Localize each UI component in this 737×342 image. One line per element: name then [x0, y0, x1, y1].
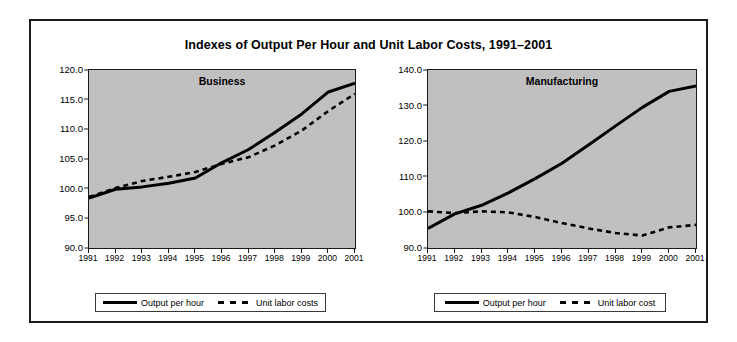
legend-entry-unit-labor-cost: Unit labor cost	[560, 298, 656, 308]
y-tick-label: 130.0	[398, 99, 427, 110]
panel-title-business: Business	[89, 75, 355, 87]
y-tick-label: 110.0	[60, 123, 88, 134]
y-tick-label: 120.0	[59, 64, 88, 75]
legend-label-output-per-hour: Output per hour	[141, 298, 204, 308]
y-tick-label: 100.0	[398, 206, 427, 217]
figure-frame: Indexes of Output Per Hour and Unit Labo…	[29, 19, 708, 323]
chart-panel-manufacturing: Manufacturing 90.0100.0110.0120.0130.014…	[380, 69, 702, 314]
plot-wrap-manufacturing: Manufacturing 90.0100.0110.0120.0130.014…	[380, 69, 702, 249]
y-tick-label: 95.0	[65, 212, 89, 223]
y-tick-label: 110.0	[399, 170, 427, 181]
y-tick-label: 120.0	[398, 135, 427, 146]
x-tick-label: 1999	[291, 253, 310, 263]
x-tick-label: 1991	[78, 253, 97, 263]
x-tick-label: 1999	[632, 253, 651, 263]
solid-line-icon	[445, 301, 479, 304]
x-tick-label: 2001	[685, 253, 704, 263]
x-tick-label: 2000	[659, 253, 678, 263]
legend-label-unit-labor-cost: Unit labor cost	[598, 298, 656, 308]
x-tick-label: 1997	[578, 253, 597, 263]
series-lines-manufacturing	[428, 70, 696, 248]
x-tick-label: 1993	[471, 253, 490, 263]
x-tick-label: 1995	[185, 253, 204, 263]
y-tick-label: 100.0	[59, 182, 88, 193]
panel-title-manufacturing: Manufacturing	[428, 75, 696, 87]
x-tick-label: 1996	[551, 253, 570, 263]
x-tick-label: 1995	[525, 253, 544, 263]
x-tick-label: 1992	[105, 253, 124, 263]
y-tick-label: 105.0	[59, 153, 88, 164]
series-line-dashed	[89, 94, 355, 197]
plot-wrap-business: Business 90.095.0100.0105.0110.0115.0120…	[43, 69, 363, 249]
legend-business: Output per hour Unit labor costs	[95, 293, 326, 312]
y-tick-label: 90.0	[65, 242, 89, 253]
plot-area-manufacturing: Manufacturing	[427, 69, 697, 249]
solid-line-icon	[103, 301, 137, 304]
x-tick-label: 1993	[132, 253, 151, 263]
legend-entry-output-per-hour: Output per hour	[103, 298, 204, 308]
legend-label-output-per-hour: Output per hour	[483, 298, 546, 308]
y-tick-label: 115.0	[60, 93, 88, 104]
x-tick-label: 1998	[265, 253, 284, 263]
series-lines-business	[89, 70, 355, 248]
x-tick-label: 1994	[158, 253, 177, 263]
series-line-solid	[428, 86, 696, 228]
dashed-line-icon	[560, 301, 594, 304]
legend-entry-unit-labor-costs: Unit labor costs	[218, 298, 318, 308]
dashed-line-icon	[218, 301, 252, 304]
x-tick-label: 2001	[344, 253, 363, 263]
x-tick-label: 1992	[444, 253, 463, 263]
figure-title: Indexes of Output Per Hour and Unit Labo…	[31, 38, 706, 52]
x-tick-label: 1991	[417, 253, 436, 263]
legend-label-unit-labor-costs: Unit labor costs	[256, 298, 318, 308]
legend-entry-output-per-hour: Output per hour	[445, 298, 546, 308]
series-line-solid	[89, 83, 355, 198]
y-tick-label: 90.0	[404, 242, 428, 253]
x-tick-label: 1997	[238, 253, 257, 263]
series-line-dashed	[428, 211, 696, 235]
x-tick-label: 2000	[318, 253, 337, 263]
x-tick-label: 1998	[605, 253, 624, 263]
x-tick-label: 1994	[498, 253, 517, 263]
plot-area-business: Business	[88, 69, 356, 249]
x-tick-label: 1996	[211, 253, 230, 263]
legend-manufacturing: Output per hour Unit labor cost	[434, 293, 666, 312]
chart-panel-business: Business 90.095.0100.0105.0110.0115.0120…	[43, 69, 363, 314]
y-tick-label: 140.0	[398, 64, 427, 75]
